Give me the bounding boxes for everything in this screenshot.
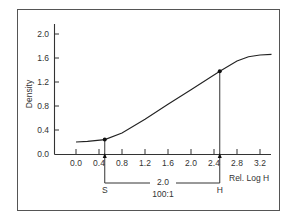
x-tick-label: 0.8 (116, 158, 128, 168)
x-tick-label: 1.2 (139, 158, 151, 168)
x-tick-label: 3.2 (254, 158, 266, 168)
y-tick-label: 0.0 (37, 149, 49, 159)
x-tick-label: 2.4 (208, 158, 220, 168)
range-value-label: 2.0 (157, 177, 169, 187)
x-axis-title: Rel. Log H (229, 173, 269, 183)
range-ratio-label: 100:1 (152, 189, 174, 199)
y-tick-label: 1.6 (37, 53, 49, 63)
x-tick-label: 0.4 (93, 158, 105, 168)
y-tick-label: 1.2 (37, 77, 49, 87)
marker-label: S (102, 185, 108, 195)
y-axis-title: Density (24, 79, 34, 108)
density-curve (76, 54, 272, 142)
marker-label: H (217, 185, 223, 195)
y-tick-label: 0.8 (37, 101, 49, 111)
y-tick-label: 2.0 (37, 29, 49, 39)
y-tick-label: 0.4 (37, 125, 49, 135)
x-tick-label: 2.0 (185, 158, 197, 168)
marker-point (218, 69, 222, 73)
characteristic-curve-chart: 0.00.40.81.21.62.0 0.00.40.81.21.62.02.4… (0, 0, 289, 216)
x-axis-ticks: 0.00.40.81.21.62.02.42.83.2 (70, 149, 266, 168)
arrow-up-icon (218, 153, 222, 158)
axes (55, 24, 272, 155)
arrow-up-icon (103, 153, 107, 158)
x-tick-label: 2.8 (231, 158, 243, 168)
y-axis-ticks: 0.00.40.81.21.62.0 (37, 29, 59, 159)
marker-point (103, 138, 107, 142)
x-tick-label: 0.0 (70, 158, 82, 168)
x-tick-label: 1.6 (162, 158, 174, 168)
